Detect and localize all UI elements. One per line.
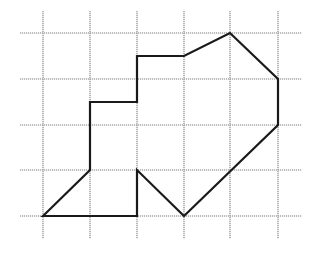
grid-lines [20, 11, 302, 239]
diagram-svg [0, 0, 318, 262]
grid-diagram [0, 0, 318, 262]
